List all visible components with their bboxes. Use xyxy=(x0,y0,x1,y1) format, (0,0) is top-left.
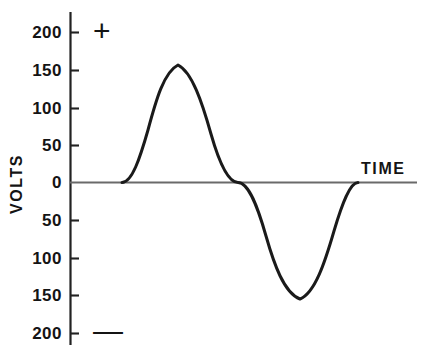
y-tick-label-100-top: 100 xyxy=(14,100,62,117)
y-tick-label-100-bottom: 100 xyxy=(14,250,62,267)
y-tick-label-150-bottom: 150 xyxy=(14,287,62,304)
x-axis-title: TIME xyxy=(361,161,406,177)
positive-polarity-sign: + xyxy=(93,16,111,46)
chart-plot-area xyxy=(0,0,425,358)
y-tick-label-150-top: 150 xyxy=(14,62,62,79)
negative-polarity-sign: — xyxy=(93,316,123,346)
y-axis-title: VOLTS xyxy=(9,144,25,224)
y-tick-label-200-top: 200 xyxy=(14,24,62,41)
sine-wave-chart: 200 150 100 50 0 50 100 150 200 VOLTS TI… xyxy=(0,0,425,358)
y-tick-label-200-bottom: 200 xyxy=(14,325,62,342)
